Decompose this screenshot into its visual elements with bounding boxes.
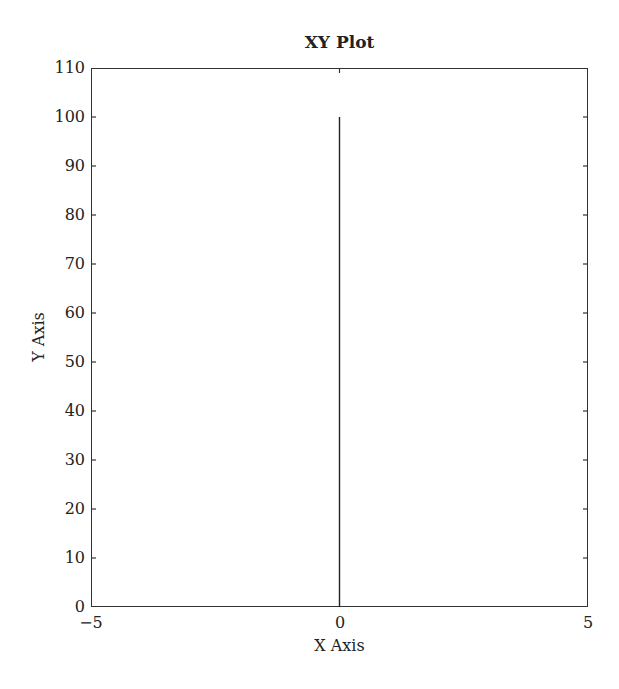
y-tick-label: 110 (35, 58, 85, 77)
y-tick-label: 70 (35, 254, 85, 273)
y-axis-label: Y Axis (29, 312, 48, 362)
x-tick-label: −5 (71, 613, 111, 632)
x-tick-label: 0 (320, 613, 360, 632)
y-tick-label: 30 (35, 450, 85, 469)
y-tick-label: 20 (35, 499, 85, 518)
y-tick-label: 100 (35, 107, 85, 126)
y-tick-label: 40 (35, 401, 85, 420)
x-axis-label: X Axis (91, 636, 588, 655)
plot-svg (0, 0, 619, 689)
y-tick-label: 90 (35, 156, 85, 175)
x-tick-label: 5 (568, 613, 608, 632)
y-tick-label: 10 (35, 548, 85, 567)
y-tick-label: 80 (35, 205, 85, 224)
